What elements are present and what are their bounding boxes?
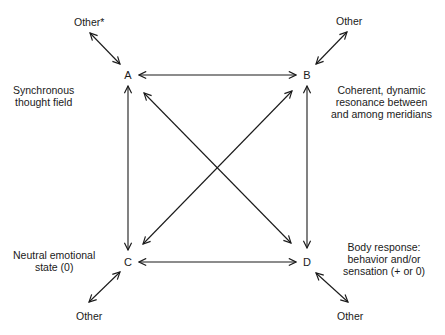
node-b: B <box>300 69 314 81</box>
four-node-diagram: A B C D Other* Other Other Other Synchro… <box>0 0 445 335</box>
other-label-d: Other <box>337 310 363 322</box>
other-label-c: Other <box>76 310 102 322</box>
arrow-b-other <box>316 32 347 64</box>
description-a: Synchronous thought field <box>13 84 74 108</box>
node-c: C <box>121 256 135 268</box>
arrow-a-other <box>90 33 120 64</box>
description-d: Body response: behavior and/or sensation… <box>343 241 425 277</box>
description-c: Neutral emotional state (0) <box>13 249 95 273</box>
description-b: Coherent, dynamic resonance between and … <box>331 84 432 120</box>
diagram-arrows <box>0 0 445 335</box>
arrow-c-other <box>89 272 120 302</box>
node-d: D <box>300 256 314 268</box>
arrow-d-other <box>316 273 348 302</box>
node-a: A <box>121 69 135 81</box>
other-label-b: Other <box>336 15 362 27</box>
other-label-a: Other* <box>74 16 104 28</box>
